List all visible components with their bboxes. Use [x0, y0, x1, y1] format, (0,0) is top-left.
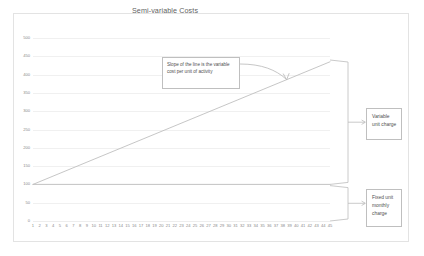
x-axis-tick-label: 19	[152, 224, 157, 228]
x-axis-tick-label: 20	[159, 224, 164, 228]
x-axis-tick-label: 5	[59, 224, 61, 228]
y-axis-tick-label: 450	[23, 54, 30, 58]
x-axis-tick-label: 27	[206, 224, 211, 228]
gridline: 150	[33, 166, 330, 167]
x-axis-tick-label: 21	[166, 224, 171, 228]
x-axis-tick-label: 30	[226, 224, 231, 228]
x-axis-tick-label: 22	[172, 224, 177, 228]
y-axis-tick-label: 250	[23, 127, 30, 131]
x-axis-tick-label: 23	[179, 224, 184, 228]
y-axis-tick-label: 50	[25, 201, 30, 205]
chart-title: Semi-variable Costs	[0, 6, 330, 15]
x-axis-tick-label: 44	[321, 224, 326, 228]
x-axis-tick-label: 34	[253, 224, 258, 228]
x-axis-tick-label: 6	[66, 224, 68, 228]
x-axis-tick-label: 40	[294, 224, 299, 228]
y-axis-tick-label: 500	[23, 36, 30, 40]
gridline: 50	[33, 203, 330, 204]
x-axis-tick-label: 28	[213, 224, 218, 228]
x-axis-tick-label: 3	[45, 224, 47, 228]
x-axis-tick-label: 43	[314, 224, 319, 228]
y-axis-tick-label: 300	[23, 109, 30, 113]
x-axis-tick-label: 31	[233, 224, 238, 228]
x-axis-tick-label: 33	[247, 224, 252, 228]
y-axis-tick-label: 150	[23, 164, 30, 168]
gridline: 300	[33, 111, 330, 112]
x-axis-tick-label: 18	[145, 224, 150, 228]
x-axis-tick-label: 10	[91, 224, 96, 228]
y-axis-tick-label: 100	[23, 182, 30, 186]
x-axis-tick-label: 24	[186, 224, 191, 228]
x-axis-tick-label: 4	[52, 224, 54, 228]
x-axis-tick-label: 13	[112, 224, 117, 228]
x-axis-tick-label: 42	[307, 224, 312, 228]
gridline: 0	[33, 221, 330, 222]
x-axis-tick-label: 1	[32, 224, 34, 228]
x-axis-tick-label: 8	[79, 224, 81, 228]
x-axis-tick-label: 32	[240, 224, 245, 228]
x-axis-tick-label: 15	[125, 224, 130, 228]
gridline: 200	[33, 148, 330, 149]
x-axis-tick-label: 17	[139, 224, 144, 228]
gridline: 250	[33, 130, 330, 131]
x-axis-tick-label: 11	[98, 224, 102, 228]
x-axis-tick-label: 2	[39, 224, 41, 228]
gridline: 100	[33, 184, 330, 185]
x-axis-tick-label: 7	[72, 224, 74, 228]
x-axis-tick-label: 14	[118, 224, 123, 228]
gridline: 500	[33, 38, 330, 39]
x-axis-tick-label: 36	[267, 224, 272, 228]
x-axis-tick-label: 38	[280, 224, 285, 228]
x-axis-tick-label: 25	[193, 224, 198, 228]
y-axis-tick-label: 350	[23, 91, 30, 95]
x-axis-tick-label: 29	[220, 224, 225, 228]
x-axis-tick-label: 12	[105, 224, 110, 228]
fixed-unit-monthly-charge-label: Fixed unit monthly charge	[366, 189, 402, 227]
x-axis-tick-label: 16	[132, 224, 137, 228]
y-axis-tick-label: 400	[23, 73, 30, 77]
gridline: 350	[33, 93, 330, 94]
y-axis-tick-label: 200	[23, 146, 30, 150]
x-axis-tick-label: 39	[287, 224, 292, 228]
x-axis-tick-label: 45	[328, 224, 333, 228]
slope-callout-annotation: Slope of the line is the variable cost p…	[162, 57, 240, 89]
x-axis-tick-label: 41	[301, 224, 306, 228]
x-axis-tick-label: 9	[86, 224, 88, 228]
x-axis-labels: 1234567891011121314151617181920212223242…	[33, 224, 330, 234]
x-axis-tick-label: 26	[199, 224, 204, 228]
x-axis-tick-label: 35	[260, 224, 265, 228]
variable-unit-charge-label: Variable unit charge	[366, 108, 402, 140]
x-axis-tick-label: 37	[274, 224, 279, 228]
y-axis-tick-label: 0	[28, 219, 30, 223]
